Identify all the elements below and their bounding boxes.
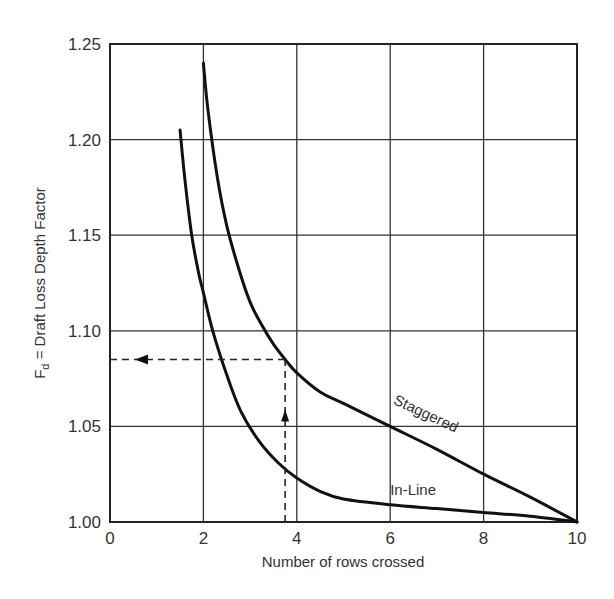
chart: 1.001.051.101.151.201.25 0246810 Stagger… — [0, 0, 614, 599]
arrow-up-icon — [281, 409, 289, 421]
x-tick-label: 10 — [568, 529, 587, 548]
y-tick-label: 1.20 — [68, 131, 101, 150]
series-line-in-line — [180, 130, 577, 522]
x-tick-label: 0 — [105, 529, 114, 548]
y-tick-label: 1.25 — [68, 35, 101, 54]
x-tick-label: 2 — [199, 529, 208, 548]
y-tick-label: 1.05 — [68, 417, 101, 436]
dashed-guide — [110, 354, 289, 522]
y-tick-label: 1.15 — [68, 226, 101, 245]
plot-frame — [110, 44, 577, 522]
arrow-left-icon — [135, 354, 148, 364]
x-tick-label: 6 — [385, 529, 394, 548]
y-axis-label: Fd = Draft Loss Depth Factor — [31, 187, 51, 379]
x-tick-label: 4 — [292, 529, 301, 548]
grid-lines — [110, 44, 577, 522]
x-axis-label: Number of rows crossed — [262, 553, 425, 570]
y-tick-label: 1.10 — [68, 322, 101, 341]
x-axis-ticks: 0246810 — [105, 529, 586, 548]
y-tick-label: 1.00 — [68, 513, 101, 532]
x-tick-label: 8 — [479, 529, 488, 548]
curve-label-staggered: Staggered — [391, 391, 461, 436]
series-lines — [180, 63, 577, 522]
y-axis-ticks: 1.001.051.101.151.201.25 — [68, 35, 101, 532]
curve-label-in-line: In-Line — [390, 481, 436, 498]
